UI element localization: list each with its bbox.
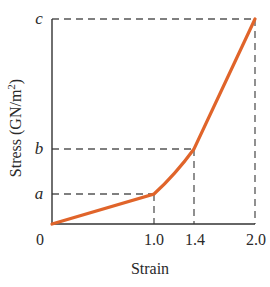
svg-text:Stress (GN/m2): Stress (GN/m2) bbox=[5, 79, 25, 177]
y-axis-title-main: Stress (GN/m bbox=[7, 89, 25, 177]
x-tick-0: 0 bbox=[36, 231, 44, 248]
y-tick-c: c bbox=[35, 9, 43, 28]
x-tick-1.0: 1.0 bbox=[144, 231, 164, 248]
y-axis-title-end: ) bbox=[7, 79, 25, 84]
x-axis-title: Strain bbox=[131, 260, 169, 277]
stress-strain-chart: 0 1.0 1.4 2.0 a b c Strain Stress (GN/m2… bbox=[0, 0, 270, 287]
x-tick-2.0: 2.0 bbox=[246, 231, 266, 248]
y-tick-a: a bbox=[35, 184, 44, 203]
stress-strain-curve bbox=[52, 19, 255, 224]
x-tick-1.4: 1.4 bbox=[185, 231, 205, 248]
y-axis-title: Stress (GN/m2) bbox=[5, 79, 25, 177]
y-tick-b: b bbox=[35, 139, 44, 158]
